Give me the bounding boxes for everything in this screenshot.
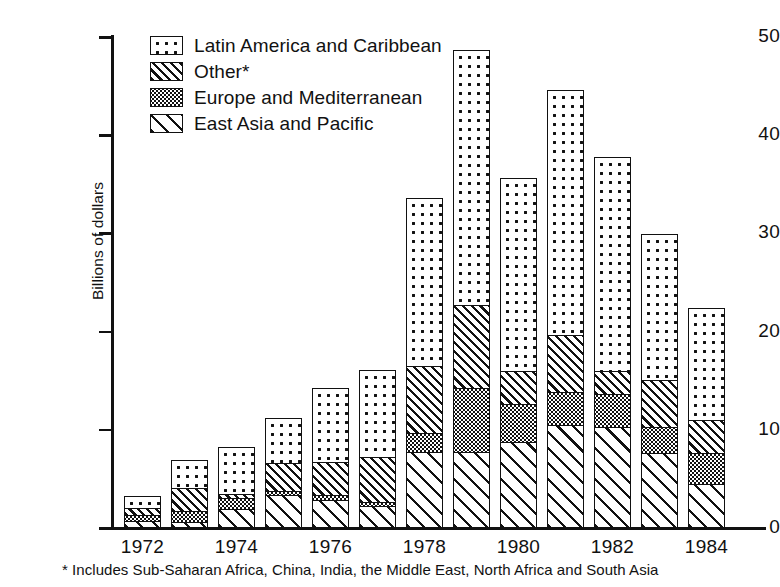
bar-segment <box>359 505 396 528</box>
legend-item: Latin America and Caribbean <box>150 33 480 58</box>
bar-segment <box>500 442 537 528</box>
y-axis-title: Billions of dollars <box>89 131 107 351</box>
bar-segment <box>406 365 443 434</box>
bar-1972 <box>124 496 161 528</box>
fine-dot-grid-swatch <box>150 88 183 107</box>
bar-segment <box>594 393 631 428</box>
x-axis-tick-label: 1978 <box>385 536 465 558</box>
bar-segment <box>547 90 584 336</box>
bar-1973 <box>171 460 208 528</box>
bar-segment <box>171 510 208 523</box>
bar-segment <box>688 484 725 528</box>
bar-segment <box>171 487 208 512</box>
bar-segment <box>359 370 396 458</box>
bar-1980 <box>500 178 537 528</box>
footnote: * Includes Sub-Saharan Africa, China, In… <box>62 561 658 578</box>
bar-segment <box>406 198 443 367</box>
bar-segment <box>453 451 490 528</box>
bar-segment <box>500 403 537 443</box>
bar-segment <box>453 387 490 453</box>
bar-segment <box>265 462 302 491</box>
bar-segment <box>406 432 443 453</box>
bar-segment <box>406 451 443 528</box>
narrow-dense-hatch-swatch <box>150 62 183 81</box>
legend-item: Europe and Mediterranean <box>150 85 480 110</box>
legend: Latin America and CaribbeanOther*Europe … <box>150 33 480 137</box>
bar-segment <box>547 425 584 528</box>
bar-segment <box>218 508 255 528</box>
bar-segment <box>594 157 631 372</box>
bar-segment <box>594 370 631 395</box>
sparse-dots-swatch <box>150 36 183 55</box>
chart-figure: 01020304050 Billions of dollars 19721974… <box>0 0 780 587</box>
legend-item: Other* <box>150 59 480 84</box>
bar-1977 <box>359 370 396 528</box>
bar-1984 <box>688 308 725 528</box>
bar-1974 <box>218 447 255 528</box>
bar-segment <box>547 391 584 426</box>
bar-segment <box>359 457 396 503</box>
bar-segment <box>171 460 208 488</box>
bar-segment <box>312 388 349 463</box>
bar-segment <box>688 308 725 421</box>
bar-segment <box>594 427 631 528</box>
bar-segment <box>500 178 537 371</box>
wide-diagonal-stripes-swatch <box>150 114 183 133</box>
bar-1983 <box>641 234 678 528</box>
bar-segment <box>641 452 678 528</box>
x-axis-tick-label: 1982 <box>573 536 653 558</box>
y-axis-tick <box>99 36 113 39</box>
x-axis-tick-label: 1980 <box>479 536 559 558</box>
bar-segment <box>312 462 349 496</box>
legend-item-label: East Asia and Pacific <box>194 113 374 135</box>
bar-segment <box>547 335 584 393</box>
bar-1976 <box>312 388 349 528</box>
bar-segment <box>688 452 725 485</box>
legend-item-label: Latin America and Caribbean <box>194 35 442 57</box>
bar-segment <box>124 496 161 510</box>
legend-item-label: Europe and Mediterranean <box>194 87 422 109</box>
x-axis-tick-label: 1974 <box>197 536 277 558</box>
bar-segment <box>641 234 678 380</box>
bar-segment <box>641 427 678 454</box>
legend-item: East Asia and Pacific <box>150 111 480 136</box>
bar-segment <box>265 418 302 464</box>
bar-segment <box>218 447 255 495</box>
bar-segment <box>500 370 537 404</box>
legend-item-label: Other* <box>194 61 250 83</box>
bar-1981 <box>547 90 584 528</box>
bar-segment <box>688 419 725 453</box>
bar-segment <box>265 495 302 528</box>
bar-segment <box>453 304 490 388</box>
y-axis-tick <box>99 429 113 432</box>
x-axis-tick-label: 1972 <box>103 536 183 558</box>
bar-1982 <box>594 157 631 528</box>
x-axis-tick-label: 1984 <box>667 536 747 558</box>
bar-segment <box>641 379 678 428</box>
bar-segment <box>312 500 349 528</box>
y-axis-tick <box>99 527 113 530</box>
x-axis-tick-label: 1976 <box>291 536 371 558</box>
bar-segment <box>218 497 255 510</box>
bar-1975 <box>265 418 302 528</box>
bar-1978 <box>406 198 443 528</box>
